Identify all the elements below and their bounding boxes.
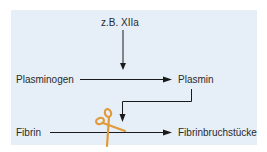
- fibrin-to-fragments-arrow: [50, 130, 172, 136]
- diagram-connectors: [0, 0, 267, 152]
- plasminogen-to-plasmin-arrow: [80, 77, 172, 83]
- plasmin-elbow-arrow: [120, 89, 192, 122]
- activation-arrow: [120, 30, 126, 70]
- scissors-icon: [95, 108, 125, 146]
